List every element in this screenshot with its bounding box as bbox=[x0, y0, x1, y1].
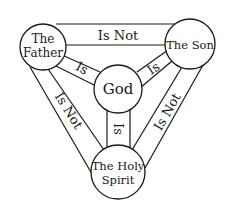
node-father-label-line2: Father bbox=[23, 46, 63, 60]
edge-label-father-son: Is Not bbox=[98, 28, 139, 43]
node-father-label-line1: The bbox=[32, 32, 55, 46]
node-god-label: God bbox=[103, 80, 134, 98]
node-father: The Father bbox=[20, 24, 66, 70]
node-holy-spirit-label-line2: Spirit bbox=[102, 173, 135, 187]
node-son: The Son bbox=[165, 19, 215, 69]
edge-label-son-god: Is bbox=[144, 59, 162, 78]
edge-label-father-spirit: Is Not bbox=[52, 90, 87, 133]
edge-label-god-spirit: Is bbox=[111, 123, 126, 135]
node-god: God bbox=[94, 65, 142, 113]
trinity-diagram: Is Not Is Is Is Is Not Is Not The Father… bbox=[0, 0, 236, 202]
diagram-canvas: Is Not Is Is Is Is Not Is Not The Father… bbox=[0, 0, 236, 202]
node-holy-spirit-label-line1: The Holy bbox=[92, 159, 145, 173]
node-son-label: The Son bbox=[166, 38, 214, 52]
node-holy-spirit: The Holy Spirit bbox=[91, 145, 145, 199]
